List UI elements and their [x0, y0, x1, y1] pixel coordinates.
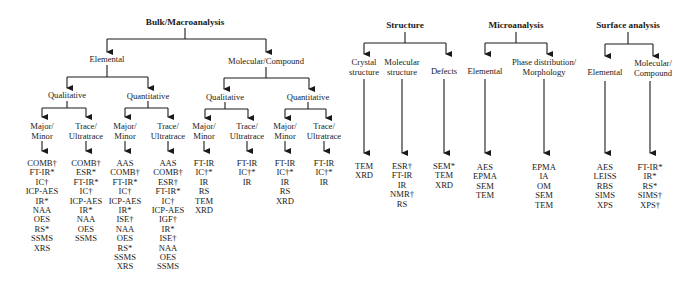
- surface-molecular-label: Molecular/ Compound: [634, 59, 672, 78]
- tree-connectors: [0, 0, 697, 284]
- bulk-molecular-qualitative-label: Qualitative: [206, 93, 244, 103]
- el-qual-trace-techniques: COMB†ESR*FT-IR*IC†ICP-AESIR*NAAOESSSMS: [70, 159, 102, 244]
- label-line-2: Morphology: [512, 68, 576, 78]
- el-qual-major-label: Major/ Minor: [30, 122, 53, 141]
- label-line-2: Ultratrace: [69, 132, 103, 142]
- bulk-macroanalysis-title: Bulk/Macroanalysis: [146, 17, 224, 27]
- bulk-elemental-quantitative-label: Quantitative: [127, 92, 169, 102]
- molecular-structure-label: Molecular structure: [384, 58, 419, 77]
- mol-qual-major-label: Major/ Minor: [192, 122, 215, 141]
- crystal-structure-techniques: TEMXRD: [355, 162, 373, 181]
- bulk-elemental-label: Elemental: [90, 55, 125, 65]
- mol-qual-major-techniques: FT-IRIC†*IRRSTEMXRD: [194, 159, 215, 215]
- mol-quant-major-label: Major/ Minor: [273, 122, 296, 141]
- technique-item: XRS: [26, 244, 58, 253]
- technique-item: TEM: [473, 191, 497, 200]
- label-line-2: Minor: [192, 132, 215, 142]
- phase-distribution-techniques: EPMAIAOMSEMTEM: [532, 163, 556, 210]
- el-quant-major-label: Major/ Minor: [113, 122, 136, 141]
- mol-qual-trace-techniques: FT-IRIC†*IR: [237, 159, 258, 187]
- technique-item: RS: [390, 200, 414, 209]
- el-qual-trace-label: Trace/ Ultratrace: [69, 122, 103, 141]
- label-line-2: structure: [384, 68, 419, 78]
- surface-molecular-techniques: FT-IR*IR*RS*SIMS†XPS†: [638, 163, 663, 210]
- el-qual-major-techniques: COMB†FT-IR*IC†ICP-AESIR*NAAOESRS*SSMSXRS: [26, 159, 58, 253]
- surface-elemental-label: Elemental: [588, 68, 623, 78]
- mol-qual-trace-label: Trace/ Ultratrace: [230, 122, 264, 141]
- structure-title: Structure: [386, 20, 424, 30]
- label-line-2: Ultratrace: [230, 132, 264, 142]
- label-line-2: Compound: [634, 69, 672, 79]
- technique-item: XPS†: [638, 201, 663, 210]
- bulk-elemental-qualitative-label: Qualitative: [48, 91, 86, 101]
- label-line-2: Minor: [113, 132, 136, 142]
- label-line-2: Ultratrace: [307, 132, 341, 142]
- surface-analysis-title: Surface analysis: [596, 20, 660, 30]
- technique-item: TEM: [532, 201, 556, 210]
- technique-item: XRD: [433, 181, 455, 190]
- micro-elemental-label: Elemental: [468, 67, 503, 77]
- technique-item: XRD: [275, 197, 296, 206]
- surface-elemental-techniques: AESLEISSRBSSIMSXPS: [594, 163, 617, 210]
- microanalysis-title: Microanalysis: [489, 20, 544, 30]
- defects-label: Defects: [431, 67, 457, 77]
- technique-item: XRD: [194, 206, 215, 215]
- label-line-2: Minor: [30, 132, 53, 142]
- label-line-2: structure: [349, 68, 379, 78]
- technique-item: IR: [314, 178, 335, 187]
- el-quant-major-techniques: AASCOMB†FT-IR*IC†ICP-AESIR*ISE†NAAOESRS*…: [109, 159, 141, 272]
- technique-item: XRS: [109, 262, 141, 271]
- technique-item: SSMS: [152, 262, 184, 271]
- technique-item: XRD: [355, 171, 373, 180]
- mol-quant-trace-techniques: FT-IRIC†*IR: [314, 159, 335, 187]
- bulk-molecular-quantitative-label: Quantitative: [287, 93, 329, 103]
- mol-quant-trace-label: Trace/ Ultratrace: [307, 122, 341, 141]
- el-quant-trace-techniques: AASCOMB†ESR†FT-IR*IC†ICP-AESIGF†IR*ISE†N…: [152, 159, 184, 272]
- technique-item: XPS: [594, 201, 617, 210]
- bulk-molecular-label: Molecular/Compound: [228, 57, 304, 67]
- technique-item: SSMS: [70, 234, 102, 243]
- label-line-2: Ultratrace: [151, 132, 185, 142]
- mol-quant-major-techniques: FT-IRIC†*IRRSXRD: [275, 159, 296, 206]
- technique-item: IR: [237, 178, 258, 187]
- molecular-structure-techniques: ESR†FT-IRIRNMR†RS: [390, 162, 414, 209]
- analysis-technique-tree: Bulk/Macroanalysis Elemental Molecular/C…: [0, 0, 697, 284]
- defects-techniques: SEM*TEMXRD: [433, 162, 455, 190]
- label-line-2: Minor: [273, 132, 296, 142]
- micro-elemental-techniques: AESEPMASEMTEM: [473, 163, 497, 201]
- crystal-structure-label: Crystal structure: [349, 58, 379, 77]
- el-quant-trace-label: Trace/ Ultratrace: [151, 122, 185, 141]
- phase-distribution-label: Phase distribution/ Morphology: [512, 58, 576, 77]
